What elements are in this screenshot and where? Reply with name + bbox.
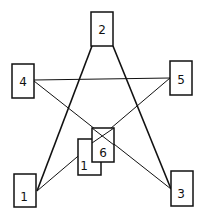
edges [34,46,171,191]
node-6: 6 [92,128,114,162]
pentagram-diagram: 2 4 5 1 6 1 3 [0,0,203,218]
node-label: 4 [19,75,27,89]
node-label: 6 [99,146,107,160]
node-1: 1 [14,174,36,207]
node-label: 1 [20,190,28,204]
node-label: 3 [177,187,185,201]
node-2: 2 [91,12,113,46]
node-label: 2 [98,23,106,37]
node-label: 5 [177,73,185,87]
node-label: 1 [80,159,88,173]
node-5: 5 [170,61,192,95]
node-3: 3 [171,171,193,206]
edge-2-to-3 [113,46,171,189]
edge-4-to-5 [34,78,170,80]
node-4: 4 [12,64,34,98]
